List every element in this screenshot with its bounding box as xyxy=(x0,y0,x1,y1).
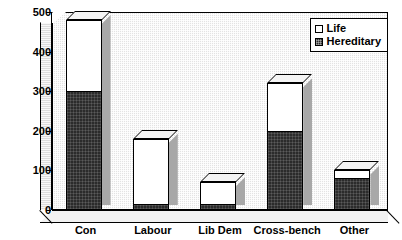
segment-life xyxy=(133,139,169,204)
bar-cross-bench[interactable] xyxy=(267,83,303,210)
dark-square-icon xyxy=(315,38,323,46)
y-axis-tick-label: 400 xyxy=(5,46,51,58)
bar-side-face xyxy=(102,15,111,205)
floor-right-edge xyxy=(387,210,400,223)
legend-label-hereditary: Hereditary xyxy=(327,35,381,48)
segment-life xyxy=(66,20,102,91)
legend-item-hereditary: Hereditary xyxy=(315,35,381,48)
y-axis-tick-label: 100 xyxy=(5,164,51,176)
segment-life xyxy=(200,182,236,204)
bar-top-face xyxy=(66,11,111,20)
bar-other[interactable] xyxy=(334,170,370,210)
segment-hereditary xyxy=(66,91,102,210)
bar-side-face xyxy=(370,165,379,205)
bar-con[interactable] xyxy=(66,20,102,210)
bar-top-face xyxy=(334,161,379,170)
y-axis-tick-mark xyxy=(46,52,51,53)
bar-top-face xyxy=(267,74,312,83)
legend: Life Hereditary xyxy=(310,18,388,52)
y-axis-tick-label: 0 xyxy=(5,204,51,216)
y-axis-tick-label: 500 xyxy=(5,6,51,18)
bar-top-face xyxy=(200,173,245,182)
white-square-icon xyxy=(315,25,323,33)
y-axis-tick-mark xyxy=(46,131,51,132)
bar-labour[interactable] xyxy=(133,139,169,210)
bar-side-face xyxy=(303,78,312,205)
y-axis-tick-label: 200 xyxy=(5,125,51,137)
y-axis-tick-mark xyxy=(46,170,51,171)
segment-life xyxy=(267,83,303,131)
bar-side-face xyxy=(236,177,245,205)
segment-hereditary xyxy=(267,131,303,210)
y-axis-tick-label: 300 xyxy=(5,85,51,97)
y-axis-tick-mark xyxy=(46,12,51,13)
legend-label-life: Life xyxy=(327,22,347,35)
segment-hereditary xyxy=(334,178,370,210)
segment-hereditary xyxy=(200,204,236,210)
x-axis-label-other: Other xyxy=(311,224,398,236)
bar-lib-dem[interactable] xyxy=(200,182,236,210)
floor-front-edge xyxy=(40,222,388,223)
bar-top-face xyxy=(133,130,178,139)
y-axis-tick-mark xyxy=(46,210,51,211)
bar-chart: 0100200300400500 ConLabourLib DemCross-b… xyxy=(0,0,402,240)
y-axis-tick-mark xyxy=(46,91,51,92)
legend-item-life: Life xyxy=(315,22,381,35)
segment-hereditary xyxy=(133,204,169,210)
bar-side-face xyxy=(169,134,178,205)
segment-life xyxy=(334,170,370,178)
